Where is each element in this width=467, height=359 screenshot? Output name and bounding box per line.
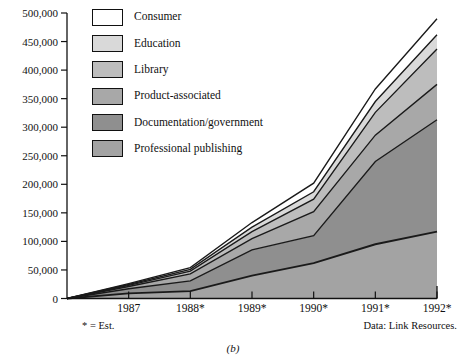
y-tick-label: 300,000 bbox=[22, 121, 58, 133]
legend-swatch-documentation-government bbox=[92, 114, 123, 131]
y-tick-label: 450,000 bbox=[22, 36, 58, 48]
y-tick-label: 400,000 bbox=[22, 64, 58, 76]
x-tick-label: 1987 bbox=[117, 302, 140, 314]
panel-label: (b) bbox=[227, 342, 240, 355]
x-tick-label: 1991* bbox=[361, 302, 390, 314]
y-tick-label: 200,000 bbox=[22, 178, 58, 190]
legend-swatch-product-associated bbox=[92, 88, 123, 105]
y-tick-label: 500,000 bbox=[22, 7, 58, 19]
x-tick-label: 1990* bbox=[299, 302, 328, 314]
legend-item: Consumer bbox=[92, 8, 302, 26]
legend-item: Product-associated bbox=[92, 87, 302, 105]
y-tick-label: 250,000 bbox=[22, 150, 58, 162]
y-tick-label: 350,000 bbox=[22, 93, 58, 105]
chart-legend: Consumer Education Library Product-assoc… bbox=[92, 8, 302, 158]
legend-label-library: Library bbox=[134, 64, 168, 76]
legend-item: Documentation/government bbox=[92, 114, 302, 132]
legend-swatch-education bbox=[92, 35, 123, 52]
legend-label-product-associated: Product-associated bbox=[134, 90, 221, 102]
legend-swatch-library bbox=[92, 61, 123, 78]
legend-swatch-professional-publishing bbox=[92, 140, 123, 157]
legend-label-documentation-government: Documentation/government bbox=[134, 117, 263, 129]
legend-item: Education bbox=[92, 34, 302, 52]
y-tick-label: 150,000 bbox=[22, 207, 58, 219]
x-tick-label: 1988* bbox=[176, 302, 205, 314]
footnote-source: Data: Link Resources. bbox=[363, 320, 457, 331]
x-tick-label: 1992* bbox=[423, 302, 452, 314]
y-tick-label: 0 bbox=[53, 293, 59, 305]
legend-label-consumer: Consumer bbox=[134, 11, 181, 23]
footnote-estimate: * = Est. bbox=[82, 320, 114, 331]
legend-swatch-consumer bbox=[92, 9, 123, 26]
x-tick-label: 1989* bbox=[238, 302, 267, 314]
y-axis-ticks: 050,000100,000150,000200,000250,000300,0… bbox=[22, 7, 67, 305]
legend-label-professional-publishing: Professional publishing bbox=[134, 143, 242, 155]
legend-item: Professional publishing bbox=[92, 140, 302, 158]
y-tick-label: 50,000 bbox=[28, 264, 59, 276]
y-tick-label: 100,000 bbox=[22, 235, 58, 247]
figure-root: 050,000100,000150,000200,000250,000300,0… bbox=[0, 0, 467, 359]
legend-item: Library bbox=[92, 61, 302, 79]
legend-label-education: Education bbox=[134, 38, 181, 50]
